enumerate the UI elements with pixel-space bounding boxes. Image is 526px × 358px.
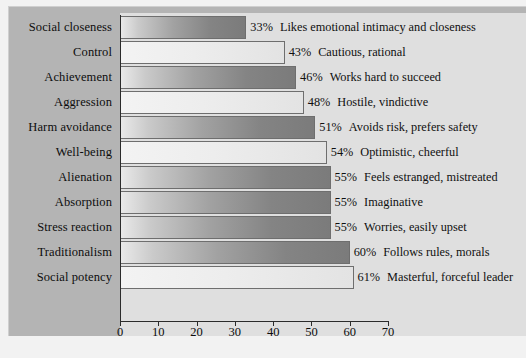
bar-value: 33% <box>250 20 273 34</box>
bar-row: Well-being54%Optimistic, cheerful <box>9 140 526 165</box>
category-label: Aggression <box>9 90 112 115</box>
bar-value-annotation: 55%Feels estranged, mistreated <box>335 165 498 190</box>
bar <box>120 166 331 189</box>
bar-description: Works hard to succeed <box>330 70 441 84</box>
bar-value: 54% <box>331 145 354 159</box>
bar-row: Aggression48%Hostile, vindictive <box>9 90 526 115</box>
bar-row: Traditionalism60%Follows rules, morals <box>9 240 526 265</box>
bar-value: 55% <box>335 220 358 234</box>
bar-description: Avoids risk, prefers safety <box>349 120 478 134</box>
chart-panel: Social closeness33%Likes emotional intim… <box>8 6 526 336</box>
bar-value: 43% <box>289 45 312 59</box>
category-label: Absorption <box>9 190 112 215</box>
bar-description: Cautious, rational <box>318 45 405 59</box>
chart-figure: Social closeness33%Likes emotional intim… <box>0 0 526 358</box>
category-label: Control <box>9 40 112 65</box>
bar-description: Likes emotional intimacy and closeness <box>280 20 476 34</box>
bar-value-annotation: 55%Imaginative <box>335 190 423 215</box>
bar-description: Imaginative <box>364 195 423 209</box>
bar-value: 61% <box>358 270 381 284</box>
bar-value-annotation: 43%Cautious, rational <box>289 40 406 65</box>
bar-row: Stress reaction55%Worries, easily upset <box>9 215 526 240</box>
bar <box>120 216 331 239</box>
bar-value-annotation: 61%Masterful, forceful leader <box>358 265 514 290</box>
bar <box>120 66 296 89</box>
bar <box>120 241 350 264</box>
bar <box>120 266 354 289</box>
bar-row: Achievement46%Works hard to succeed <box>9 65 526 90</box>
bar <box>120 16 246 39</box>
bar-value: 48% <box>308 95 331 109</box>
bar-description: Optimistic, cheerful <box>360 145 458 159</box>
bar-row: Control43%Cautious, rational <box>9 40 526 65</box>
bar-description: Masterful, forceful leader <box>387 270 513 284</box>
x-tick-label: 30 <box>215 325 255 340</box>
bar-value-annotation: 33%Likes emotional intimacy and closenes… <box>250 15 476 40</box>
bar-value: 55% <box>335 195 358 209</box>
bar-value: 55% <box>335 170 358 184</box>
bar-row: Social closeness33%Likes emotional intim… <box>9 15 526 40</box>
bar-description: Worries, easily upset <box>364 220 466 234</box>
bar <box>120 91 304 114</box>
bar <box>120 41 285 64</box>
bar-value-annotation: 48%Hostile, vindictive <box>308 90 428 115</box>
category-label: Achievement <box>9 65 112 90</box>
bar <box>120 141 327 164</box>
bar-description: Hostile, vindictive <box>337 95 428 109</box>
bar-value-annotation: 60%Follows rules, morals <box>354 240 490 265</box>
bar <box>120 116 315 139</box>
bar-value: 60% <box>354 245 377 259</box>
category-label: Well-being <box>9 140 112 165</box>
bar-row: Harm avoidance51%Avoids risk, prefers sa… <box>9 115 526 140</box>
bar-value: 51% <box>319 120 342 134</box>
category-label: Alienation <box>9 165 112 190</box>
bar-row: Alienation55%Feels estranged, mistreated <box>9 165 526 190</box>
x-tick-label: 40 <box>253 325 293 340</box>
bar-value-annotation: 46%Works hard to succeed <box>300 65 441 90</box>
bar-row: Absorption55%Imaginative <box>9 190 526 215</box>
x-tick-label: 50 <box>291 325 331 340</box>
bar-chart: Social closeness33%Likes emotional intim… <box>9 7 526 337</box>
y-axis-line <box>120 15 121 322</box>
category-label: Harm avoidance <box>9 115 112 140</box>
bar-value-annotation: 55%Worries, easily upset <box>335 215 467 240</box>
category-label: Social closeness <box>9 15 112 40</box>
category-label: Stress reaction <box>9 215 112 240</box>
bar-description: Feels estranged, mistreated <box>364 170 498 184</box>
x-tick-label: 0 <box>100 325 140 340</box>
bar-value-annotation: 54%Optimistic, cheerful <box>331 140 459 165</box>
bar <box>120 191 331 214</box>
bar-value-annotation: 51%Avoids risk, prefers safety <box>319 115 477 140</box>
bar-value: 46% <box>300 70 323 84</box>
x-tick-label: 10 <box>138 325 178 340</box>
x-tick-label: 20 <box>177 325 217 340</box>
x-tick-label: 60 <box>330 325 370 340</box>
category-label: Traditionalism <box>9 240 112 265</box>
x-axis-line <box>120 321 388 322</box>
bar-row: Social potency61%Masterful, forceful lea… <box>9 265 526 290</box>
x-tick-label: 70 <box>368 325 408 340</box>
category-label: Social potency <box>9 265 112 290</box>
bar-description: Follows rules, morals <box>383 245 489 259</box>
